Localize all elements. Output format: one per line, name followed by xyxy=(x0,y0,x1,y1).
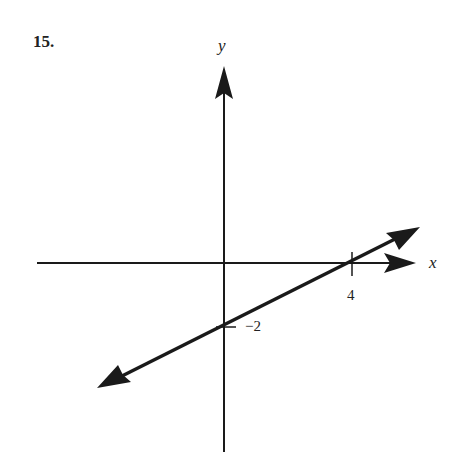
x-tick-label: 4 xyxy=(347,287,355,304)
line-arrow-lower-icon xyxy=(97,365,131,388)
y-axis xyxy=(215,66,233,452)
y-tick-label: −2 xyxy=(245,318,261,335)
plotted-line xyxy=(97,227,420,388)
x-axis-label: x xyxy=(429,253,437,273)
line-arrow-upper-icon xyxy=(386,227,420,250)
coordinate-plot xyxy=(0,0,460,454)
y-axis-label: y xyxy=(218,36,226,56)
